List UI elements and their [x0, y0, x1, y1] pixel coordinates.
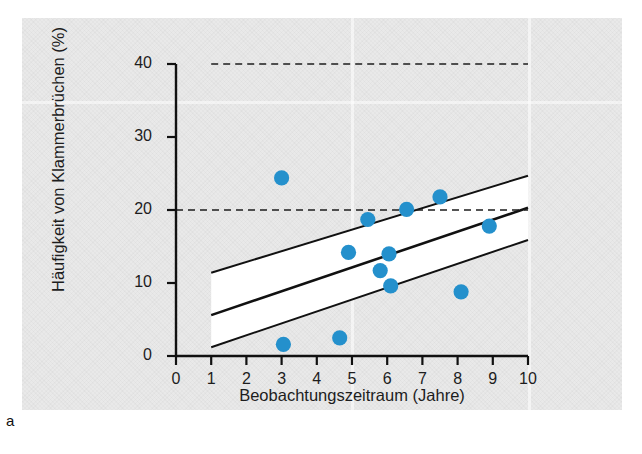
x-tick-label: 9	[478, 370, 508, 388]
figure-container: Häufigkeit von Klammerbrüchen (%) Beobac…	[0, 0, 642, 454]
y-tick-label: 40	[118, 54, 152, 72]
figure-letter: a	[6, 412, 14, 429]
y-tick-label: 30	[118, 127, 152, 145]
data-point	[381, 246, 396, 261]
data-point	[373, 263, 388, 278]
x-tick-label: 3	[267, 370, 297, 388]
data-point	[432, 189, 447, 204]
data-point	[383, 278, 398, 293]
data-point	[332, 330, 347, 345]
data-point	[482, 219, 497, 234]
x-tick-label: 5	[337, 370, 367, 388]
data-point	[341, 245, 356, 260]
x-tick-label: 4	[302, 370, 332, 388]
x-tick-label: 6	[372, 370, 402, 388]
data-point	[276, 337, 291, 352]
x-tick-label: 0	[161, 370, 191, 388]
x-tick-label: 10	[513, 370, 543, 388]
y-axis-title: Häufigkeit von Klammerbrüchen (%)	[49, 10, 68, 310]
data-point	[399, 202, 414, 217]
y-tick-label: 10	[118, 273, 152, 291]
y-tick-label: 0	[118, 346, 152, 364]
y-tick-label: 20	[118, 200, 152, 218]
x-tick-label: 2	[231, 370, 261, 388]
data-point	[360, 212, 375, 227]
x-tick-label: 1	[196, 370, 226, 388]
x-tick-label: 7	[407, 370, 437, 388]
x-tick-label: 8	[443, 370, 473, 388]
x-axis-title: Beobachtungszeitraum (Jahre)	[176, 386, 528, 405]
data-point	[454, 284, 469, 299]
data-point	[274, 170, 289, 185]
